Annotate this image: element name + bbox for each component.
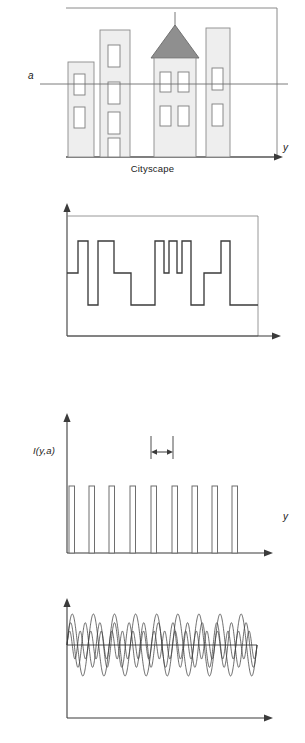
window xyxy=(212,68,223,90)
panel-period: I(y,a) y Fundamental Period xyxy=(0,398,305,580)
period-arrow-head-left xyxy=(151,449,157,454)
period-svg xyxy=(0,398,305,580)
window xyxy=(108,112,120,134)
intensity-axis-arrow-up xyxy=(63,203,70,212)
church-roof xyxy=(151,25,199,58)
window xyxy=(74,74,85,95)
window xyxy=(212,104,223,126)
building-3-church xyxy=(151,12,199,157)
fourier-axis-arrow-up xyxy=(63,598,70,607)
y-axis-arrow-panel4 xyxy=(264,714,273,721)
figure-root: a y Cityscape I(y,a) y xyxy=(0,0,305,743)
pulse xyxy=(192,486,198,553)
pulse xyxy=(69,486,75,553)
panel-intensity: I(y,a) y xyxy=(0,186,305,364)
pulse xyxy=(172,486,178,553)
building-1 xyxy=(68,62,94,157)
panel-fourier: Fourier components y xyxy=(0,585,305,743)
window xyxy=(108,138,120,157)
intensity-svg xyxy=(0,186,305,364)
window xyxy=(178,106,189,126)
intensity-waveform xyxy=(67,241,258,305)
window xyxy=(108,45,120,67)
pulse xyxy=(89,486,95,553)
cityscape-caption: Cityscape xyxy=(0,163,305,174)
fundamental-period-annotation xyxy=(151,436,173,459)
window xyxy=(108,82,120,104)
pulse xyxy=(109,486,115,553)
y-axis-arrow-panel3 xyxy=(264,549,273,556)
axis-label-y-panel1: y xyxy=(283,142,288,153)
period-arrow-head-right xyxy=(167,449,173,454)
pulse xyxy=(212,486,218,553)
fourier-svg xyxy=(0,585,305,743)
building-4 xyxy=(206,28,230,157)
window xyxy=(160,106,171,126)
scan-line-label-a: a xyxy=(28,70,34,81)
panel-cityscape: a y Cityscape xyxy=(0,0,305,190)
window xyxy=(160,72,171,92)
pulse xyxy=(151,486,157,553)
window xyxy=(178,72,189,92)
cityscape-svg xyxy=(0,0,305,190)
pulse xyxy=(232,486,238,553)
pulse xyxy=(130,486,136,553)
building-2 xyxy=(100,30,130,157)
y-axis-arrow-panel1 xyxy=(274,153,283,160)
pulse-train xyxy=(69,486,238,553)
period-axis-arrow-up xyxy=(63,413,70,422)
y-axis-arrow-panel2 xyxy=(272,332,281,339)
window xyxy=(74,107,85,128)
